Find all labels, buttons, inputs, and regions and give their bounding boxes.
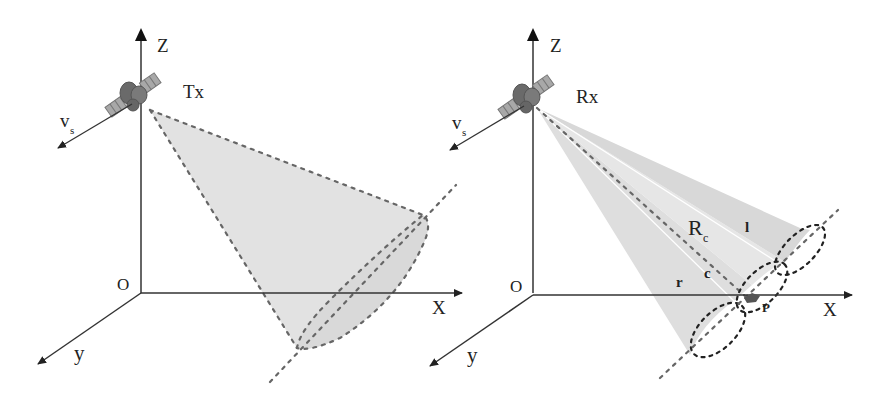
velocity-label: v xyxy=(60,110,70,131)
z-label: Z xyxy=(157,35,169,56)
rx-label: Rx xyxy=(576,86,599,107)
left-panel: Z Tx v s O X y xyxy=(38,34,462,382)
tx-beam-cone xyxy=(150,110,428,349)
target-point-label: P xyxy=(762,300,770,315)
y-label: y xyxy=(467,343,478,367)
beam-c-label: c xyxy=(704,265,711,281)
range-label: R xyxy=(688,215,703,240)
right-panel: Z Rx v s O X y R c l c r P xyxy=(430,34,852,378)
x-label: X xyxy=(823,299,837,320)
z-label: Z xyxy=(550,35,562,56)
diagram-canvas: Z Tx v s O X y xyxy=(0,0,883,406)
x-label: X xyxy=(432,297,446,318)
velocity-label: v xyxy=(452,112,462,133)
velocity-subscript: s xyxy=(70,124,74,136)
origin-label: O xyxy=(510,277,522,296)
tx-label: Tx xyxy=(183,81,205,102)
beam-r-label: r xyxy=(676,274,683,290)
velocity-subscript: s xyxy=(462,126,466,138)
origin-label: O xyxy=(117,275,129,294)
beam-l-label: l xyxy=(745,219,749,235)
range-subscript: c xyxy=(703,231,708,245)
y-label: y xyxy=(74,341,85,365)
y-axis xyxy=(38,293,141,364)
